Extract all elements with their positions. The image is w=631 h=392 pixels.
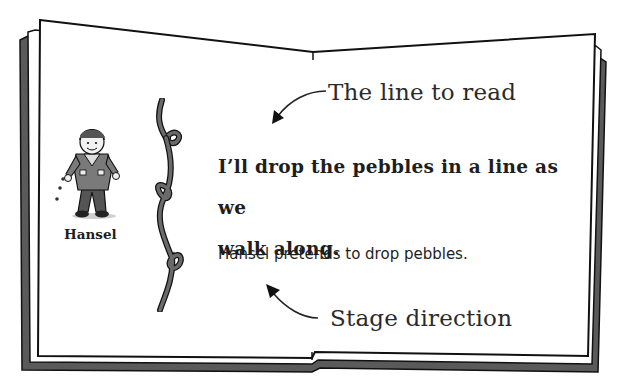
boy-character-icon xyxy=(50,108,130,224)
arrow-to-line-icon xyxy=(268,88,328,128)
annotation-stage-direction: Stage direction xyxy=(330,305,512,331)
script-line-part1: I’ll drop the pebbles in a line as we xyxy=(218,146,588,228)
arrow-to-stage-direction-icon xyxy=(262,282,322,322)
vine-divider-icon xyxy=(146,98,192,312)
stage-direction-text: Hansel pretends to drop pebbles. xyxy=(218,245,468,263)
character-name-label: Hansel xyxy=(64,226,117,242)
open-book-illustration: The line to read Hansel xyxy=(0,0,631,392)
annotation-line-to-read: The line to read xyxy=(328,79,516,105)
